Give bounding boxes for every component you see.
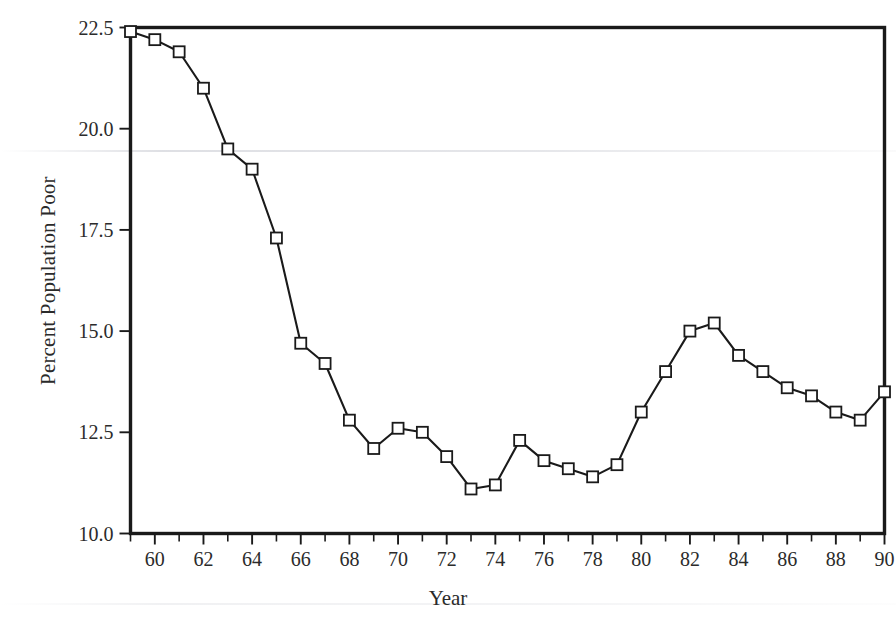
data-point-marker [441,451,452,462]
x-tick-label: 88 [826,548,846,571]
data-point-marker [149,34,160,45]
data-point-marker [222,143,233,154]
x-axis-title: Year [0,586,896,611]
data-point-marker [660,366,671,377]
data-point-marker [611,459,622,470]
x-tick-label: 70 [388,548,408,571]
data-point-marker [757,366,768,377]
data-point-marker [466,483,477,494]
data-point-marker [684,326,695,337]
data-point-marker [636,407,647,418]
data-point-marker [879,386,890,397]
series-markers [125,26,890,494]
data-point-marker [393,423,404,434]
data-point-marker [320,358,331,369]
series-line-poverty-rate [131,32,885,489]
data-point-marker [174,46,185,57]
data-point-marker [709,318,720,329]
x-tick-label: 76 [534,548,554,571]
x-tick-label: 78 [583,548,603,571]
x-tick-label: 68 [339,548,359,571]
y-tick-label: 10.0 [79,522,114,545]
y-tick-label: 22.5 [79,16,114,39]
x-tick-label: 84 [729,548,749,571]
x-tick-label: 60 [145,548,165,571]
data-point-marker [806,390,817,401]
data-point-marker [368,443,379,454]
y-tick-label: 17.5 [79,218,114,241]
data-point-marker [538,455,549,466]
x-tick-label: 72 [437,548,457,571]
data-point-marker [198,83,209,94]
data-point-marker [733,350,744,361]
y-tick-label: 20.0 [79,117,114,140]
data-point-marker [514,435,525,446]
data-point-marker [490,479,501,490]
data-point-marker [830,407,841,418]
data-point-marker [855,415,866,426]
data-point-marker [563,463,574,474]
x-tick-label: 80 [631,548,651,571]
data-point-marker [417,427,428,438]
data-point-marker [782,382,793,393]
x-tick-label: 64 [242,548,262,571]
plot-area [0,0,896,632]
y-tick-label: 15.0 [79,320,114,343]
x-tick-label: 90 [875,548,895,571]
plot-frame [131,28,885,534]
y-axis-title: Percent Population Poor [36,176,61,385]
poverty-rate-line-chart: Percent Population Poor 22.520.017.515.0… [0,0,896,632]
x-tick-label: 86 [777,548,797,571]
data-point-marker [125,26,136,37]
data-point-marker [271,232,282,243]
x-tick-label: 66 [291,548,311,571]
x-tick-label: 62 [193,548,213,571]
data-point-marker [295,338,306,349]
y-tick-label: 12.5 [79,421,114,444]
data-point-marker [344,415,355,426]
data-point-marker [587,471,598,482]
x-tick-label: 82 [680,548,700,571]
data-point-marker [247,164,258,175]
x-tick-label: 74 [485,548,505,571]
